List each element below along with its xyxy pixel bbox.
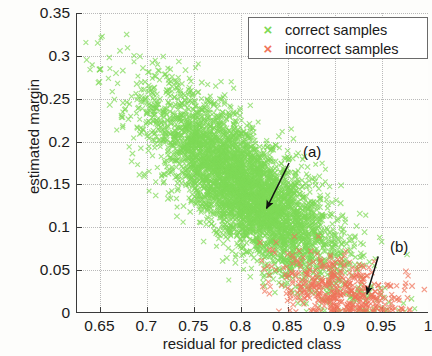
scatter-point: [215, 106, 220, 111]
scatter-point: [175, 180, 181, 186]
scatter-point: [155, 165, 160, 170]
scatter-point: [153, 193, 158, 198]
scatter-point: [137, 117, 142, 122]
scatter-point: [146, 148, 152, 154]
scatter-point: [289, 127, 294, 132]
scatter-point: [151, 96, 156, 101]
scatter-point: [327, 184, 332, 189]
scatter-point: [199, 96, 204, 101]
scatter-point: [120, 100, 126, 105]
scatter-point: [127, 144, 132, 149]
scatter-point: [117, 48, 122, 53]
scatter-point: [113, 70, 119, 75]
annotation-b-label: (b): [390, 238, 408, 255]
scatter-point: [323, 167, 328, 172]
scatter-point: [401, 301, 406, 306]
scatter-point: [114, 128, 119, 133]
scatter-point: [325, 206, 330, 211]
scatter-point: [126, 117, 131, 122]
scatter-point: [405, 295, 410, 300]
x-tick-label: 0.9: [323, 317, 345, 335]
scatter-point: [137, 54, 142, 59]
x-tick-label: 0.75: [178, 317, 208, 335]
scatter-point: [174, 214, 180, 220]
scatter-point: [218, 79, 223, 84]
scatter-point: [129, 159, 134, 164]
scatter-point: [251, 255, 256, 260]
scatter-point: [248, 274, 253, 279]
scatter-point: [176, 59, 181, 64]
scatter-point: [233, 260, 238, 265]
scatter-point: [279, 161, 284, 166]
y-tick-label: 0: [61, 304, 70, 322]
scatter-point: [142, 79, 147, 84]
scatter-point: [108, 66, 113, 71]
scatter-point: [237, 113, 242, 118]
legend-item-correct-samples: × correct samples: [249, 20, 427, 39]
scatter-point: [95, 40, 100, 45]
scatter-point: [100, 34, 105, 39]
scatter-point: [274, 164, 279, 169]
scatter-point: [131, 136, 136, 141]
scatter-point: [137, 172, 142, 177]
scatter-point: [262, 289, 267, 294]
scatter-point: [196, 62, 201, 67]
scatter-point: [193, 65, 198, 70]
scatter-point: [267, 291, 272, 296]
y-tick-label: 0.25: [40, 90, 70, 108]
y-axis-label: estimated margin: [25, 52, 42, 222]
scatter-point: [161, 54, 166, 59]
x-tick-label: 0.85: [272, 317, 302, 335]
scatter-point: [230, 249, 235, 254]
scatter-point: [222, 92, 227, 97]
scatter-point: [181, 203, 186, 208]
scatter-point: [188, 209, 193, 214]
y-tick-label: 0.3: [48, 47, 70, 65]
scatter-point: [157, 78, 162, 83]
legend-item-incorrect-samples: × incorrect samples: [249, 39, 427, 58]
scatter-point: [214, 244, 219, 249]
scatter-point: [147, 169, 152, 174]
scatter-point: [226, 278, 231, 283]
scatter-point: [320, 161, 325, 166]
scatter-point: [224, 255, 230, 261]
scatter-point: [338, 200, 344, 206]
scatter-point: [280, 129, 285, 134]
scatter-point: [153, 179, 158, 184]
scatter-point: [157, 96, 162, 101]
scatter-point: [287, 308, 292, 312]
scatter-point: [317, 174, 322, 179]
scatter-point: [107, 102, 113, 108]
scatter-point: [204, 222, 209, 227]
scatter-point: [248, 103, 253, 108]
y-tick-label: 0.2: [48, 133, 70, 151]
scatter-point: [205, 82, 210, 87]
scatter-point: [290, 302, 295, 307]
scatter-point: [325, 193, 330, 198]
scatter-point: [412, 306, 417, 311]
scatter-point: [225, 236, 230, 241]
scatter-point: [153, 142, 158, 147]
scatter-point: [394, 283, 399, 288]
scatter-point: [201, 239, 206, 244]
scatter-point: [293, 309, 298, 312]
scatter-point: [134, 81, 139, 86]
scatter-point: [183, 67, 188, 72]
scatter-point: [181, 220, 186, 225]
scatter-point: [313, 179, 318, 184]
scatter-point: [366, 265, 371, 270]
scatter-plot-figure: estimated margin residual for predicted …: [0, 0, 432, 356]
scatter-point: [84, 40, 89, 45]
legend-label-incorrect: incorrect samples: [279, 41, 399, 57]
scatter-point: [243, 259, 248, 264]
x-tick-label: 0.95: [366, 317, 396, 335]
scatter-point: [174, 196, 179, 201]
scatter-point: [354, 223, 359, 228]
scatter-point: [120, 68, 125, 73]
scatter-point: [261, 145, 266, 150]
scatter-point: [362, 229, 367, 234]
scatter-point: [135, 162, 140, 167]
scatter-point: [134, 111, 139, 116]
scatter-point: [249, 266, 254, 271]
scatter-point: [338, 183, 344, 189]
